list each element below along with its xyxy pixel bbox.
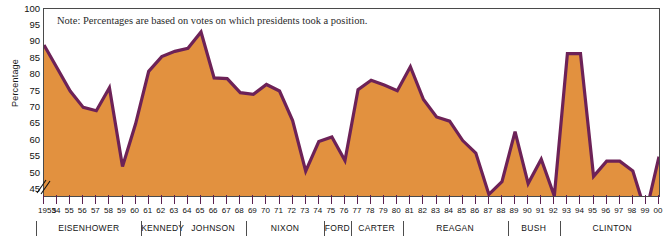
- x-label-82: 82: [415, 206, 429, 216]
- y-tick-50: 50: [29, 168, 40, 177]
- y-tick-80: 80: [29, 69, 40, 78]
- x-tick-55: [69, 195, 70, 204]
- president-label-kennedy: KENNEDY: [141, 222, 180, 234]
- x-tick-57: [95, 195, 96, 204]
- x-tick-71: [279, 195, 280, 204]
- plot-area: [43, 8, 660, 197]
- x-label-67: 67: [219, 206, 233, 216]
- y-tick-75: 75: [29, 86, 40, 95]
- x-tick-75: [331, 195, 332, 204]
- x-label-68: 68: [232, 206, 246, 216]
- x-tick-84: [449, 195, 450, 204]
- x-label-98: 98: [625, 206, 639, 216]
- x-tick-89: [514, 195, 515, 204]
- x-label-96: 96: [599, 206, 613, 216]
- x-tick-90: [527, 195, 528, 204]
- x-tick-67: [226, 195, 227, 204]
- x-label-87: 87: [481, 206, 495, 216]
- chart-note: Note: Percentages are based on votes on …: [57, 15, 367, 26]
- x-tick-65: [200, 195, 201, 204]
- x-label-97: 97: [612, 206, 626, 216]
- x-tick-95: [593, 195, 594, 204]
- x-label-88: 88: [494, 206, 508, 216]
- president-label-carter: CARTER: [351, 222, 403, 234]
- president-label-ford: FORD: [324, 222, 350, 234]
- x-tick-58: [108, 195, 109, 204]
- x-tick-59: [122, 195, 123, 204]
- y-tick-95: 95: [29, 20, 40, 29]
- y-tick-55: 55: [29, 151, 40, 160]
- x-tick-97: [619, 195, 620, 204]
- x-label-71: 71: [272, 206, 286, 216]
- x-tick-88: [501, 195, 502, 204]
- x-tick-78: [370, 195, 371, 204]
- x-tick-86: [475, 195, 476, 204]
- x-tick-70: [265, 195, 266, 204]
- x-label-72: 72: [285, 206, 299, 216]
- x-label-62: 62: [154, 206, 168, 216]
- x-label-78: 78: [363, 206, 377, 216]
- president-label-reagan: REAGAN: [403, 222, 508, 234]
- x-label-55: 55: [62, 206, 76, 216]
- x-label-00: 00: [651, 206, 665, 216]
- x-label-63: 63: [167, 206, 181, 216]
- x-tick-1953: [43, 195, 44, 204]
- x-tick-60: [135, 195, 136, 204]
- x-label-86: 86: [468, 206, 482, 216]
- x-label-70: 70: [258, 206, 272, 216]
- x-tick-85: [462, 195, 463, 204]
- x-label-66: 66: [206, 206, 220, 216]
- x-label-84: 84: [442, 206, 456, 216]
- x-tick-73: [305, 195, 306, 204]
- president-term-bands: EISENHOWERKENNEDYJOHNSONNIXONFORDCARTERR…: [0, 220, 669, 239]
- x-label-64: 64: [180, 206, 194, 216]
- president-label-nixon: NIXON: [246, 222, 325, 234]
- x-label-54: 54: [49, 206, 63, 216]
- x-label-60: 60: [128, 206, 142, 216]
- y-tick-65: 65: [29, 118, 40, 127]
- x-label-79: 79: [376, 206, 390, 216]
- x-tick-80: [396, 195, 397, 204]
- x-label-95: 95: [586, 206, 600, 216]
- x-label-73: 73: [298, 206, 312, 216]
- x-axis-tick-labels: 1953545556575859606162636465666768697071…: [0, 206, 669, 218]
- x-tick-61: [148, 195, 149, 204]
- x-tick-72: [292, 195, 293, 204]
- x-label-56: 56: [75, 206, 89, 216]
- x-tick-93: [566, 195, 567, 204]
- president-label-clinton: CLINTON: [560, 222, 665, 234]
- y-tick-90: 90: [29, 36, 40, 45]
- y-tick-60: 60: [29, 135, 40, 144]
- x-tick-91: [540, 195, 541, 204]
- y-tick-100: 100: [24, 4, 40, 13]
- x-tick-81: [409, 195, 410, 204]
- x-tick-69: [252, 195, 253, 204]
- x-label-85: 85: [455, 206, 469, 216]
- x-label-99: 99: [638, 206, 652, 216]
- x-tick-62: [161, 195, 162, 204]
- x-label-91: 91: [533, 206, 547, 216]
- x-tick-77: [357, 195, 358, 204]
- president-label-bush: BUSH: [508, 222, 560, 234]
- x-label-74: 74: [311, 206, 325, 216]
- x-label-80: 80: [389, 206, 403, 216]
- x-label-77: 77: [350, 206, 364, 216]
- x-tick-99: [645, 195, 646, 204]
- x-label-57: 57: [88, 206, 102, 216]
- x-label-81: 81: [402, 206, 416, 216]
- x-tick-82: [422, 195, 423, 204]
- x-label-90: 90: [520, 206, 534, 216]
- x-tick-96: [606, 195, 607, 204]
- chart-container: Percentage 1009590858075706560555045 Not…: [0, 0, 669, 239]
- x-label-75: 75: [324, 206, 338, 216]
- x-label-65: 65: [193, 206, 207, 216]
- x-label-93: 93: [559, 206, 573, 216]
- x-tick-94: [579, 195, 580, 204]
- x-label-94: 94: [572, 206, 586, 216]
- x-label-58: 58: [101, 206, 115, 216]
- x-tick-54: [56, 195, 57, 204]
- x-label-59: 59: [115, 206, 129, 216]
- y-tick-70: 70: [29, 102, 40, 111]
- x-tick-92: [553, 195, 554, 204]
- y-tick-85: 85: [29, 53, 40, 62]
